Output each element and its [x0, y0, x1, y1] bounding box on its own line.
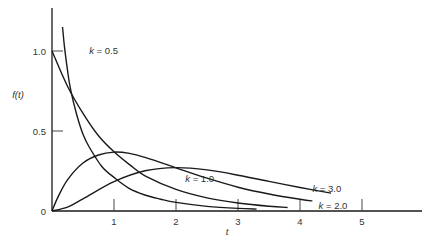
series-line-1.0 — [52, 51, 288, 208]
chart: 1234500.51.0 k = 0.5k = 1.0k = 2.0k = 3.… — [0, 0, 433, 250]
y-tick-label: 1.0 — [33, 46, 46, 57]
series-label: k = 2.0 — [319, 200, 348, 211]
axes — [52, 8, 422, 211]
x-tick-label: 4 — [297, 216, 302, 227]
y-tick-label: 0 — [41, 206, 46, 217]
x-tick-label: 2 — [173, 216, 178, 227]
series-label: k = 1.0 — [185, 173, 214, 184]
y-axis-label: f(t) — [12, 89, 24, 100]
x-axis-label: t — [226, 226, 229, 237]
series-label: k = 0.5 — [89, 45, 118, 56]
series-label: k = 3.0 — [312, 183, 341, 194]
x-tick-label: 3 — [235, 216, 240, 227]
x-tick-label: 1 — [111, 216, 116, 227]
y-tick-label: 0.5 — [33, 126, 46, 137]
series-labels: k = 0.5k = 1.0k = 2.0k = 3.0 — [89, 45, 347, 211]
x-tick-label: 5 — [359, 216, 364, 227]
series-line-2.0 — [52, 152, 312, 211]
